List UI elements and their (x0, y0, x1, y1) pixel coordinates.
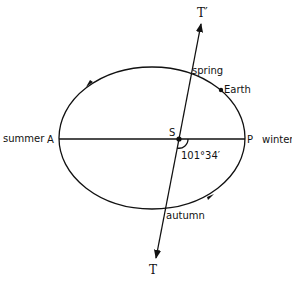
autumn-label: autumn (166, 210, 205, 221)
orbit-ellipse (59, 67, 245, 209)
sun-dot (176, 136, 181, 141)
earth-label: Earth (224, 84, 251, 95)
s-label: S (169, 127, 175, 138)
winter-label: winter (262, 134, 292, 145)
equinox-line-up (179, 24, 201, 139)
equinox-line-down (156, 139, 179, 258)
a-label: A (47, 134, 54, 145)
t-prime-label: T′ (197, 6, 208, 20)
orbit-diagram: T′ T spring Earth summer A S P winter 10… (0, 0, 292, 282)
t-label: T (149, 263, 157, 277)
earth-dot (219, 88, 223, 92)
angle-label: 101°34′ (181, 150, 221, 161)
spring-label: spring (192, 65, 223, 76)
p-label: P (247, 134, 253, 145)
summer-label: summer (3, 133, 45, 144)
